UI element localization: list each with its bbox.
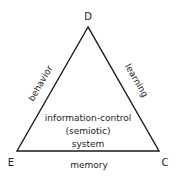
triangle-diagram: D E C behavior learning memory informati… [0, 0, 179, 180]
center-label-line-2: (semiotic) [66, 126, 111, 136]
vertex-label-c: C [162, 157, 169, 168]
vertex-label-d: D [84, 11, 92, 22]
edge-label-learning: learning [123, 62, 150, 99]
center-label-line-1: information-control [45, 113, 131, 123]
vertex-label-e: E [8, 157, 14, 168]
edge-label-memory: memory [70, 160, 108, 170]
center-label-line-3: system [72, 139, 105, 149]
edge-label-behavior: behavior [26, 64, 55, 103]
